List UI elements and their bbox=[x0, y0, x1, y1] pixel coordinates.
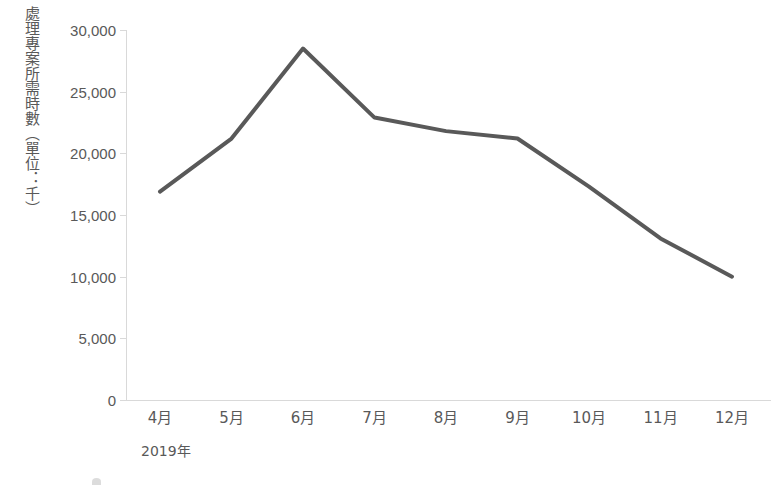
series-layer bbox=[0, 0, 781, 485]
data-series-line bbox=[160, 49, 732, 277]
page-artifact bbox=[92, 478, 101, 485]
line-chart: 處理專案所需時數（單位：千） 05,00010,00015,00020,0002… bbox=[0, 0, 781, 485]
